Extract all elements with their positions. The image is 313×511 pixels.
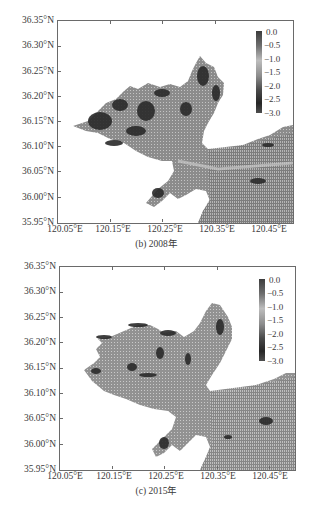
y-tick-label: 36.25°N xyxy=(2,312,56,322)
panel-2015: 36.35°N 36.30°N 36.25°N 36.20°N 36.15°N … xyxy=(0,0,313,511)
x-tick-label: 120.35°E xyxy=(193,471,243,481)
colorbar-tick: −2.5 xyxy=(267,342,283,352)
y-tick-label: 36.00°N xyxy=(2,439,56,449)
colorbar-tick: −1.0 xyxy=(267,302,283,312)
colorbar-2015 xyxy=(259,279,265,361)
y-tick-label: 36.20°N xyxy=(2,337,56,347)
y-tick-label: 36.35°N xyxy=(2,261,56,271)
x-tick-label: 120.25°E xyxy=(141,471,191,481)
panel-caption: (c) 2015年 xyxy=(0,483,313,497)
x-tick-label: 120.45°E xyxy=(245,471,295,481)
colorbar-tick: −1.5 xyxy=(267,315,283,325)
y-tick-label: 36.05°N xyxy=(2,413,56,423)
colorbar-tick: 0.0 xyxy=(269,275,280,285)
colorbar-tick: −2.0 xyxy=(267,329,283,339)
x-tick-label: 120.05°E xyxy=(40,471,90,481)
plot-area-2015: 0.0 −0.5 −1.0 −1.5 −2.0 −2.5 −3.0 xyxy=(59,266,296,471)
x-tick-label: 120.15°E xyxy=(89,471,139,481)
colorbar-tick: −3.0 xyxy=(267,356,283,366)
y-tick-label: 36.15°N xyxy=(2,362,56,372)
colorbar-tick: −0.5 xyxy=(267,288,283,298)
y-tick-label: 36.30°N xyxy=(2,286,56,296)
y-tick-label: 36.10°N xyxy=(2,388,56,398)
